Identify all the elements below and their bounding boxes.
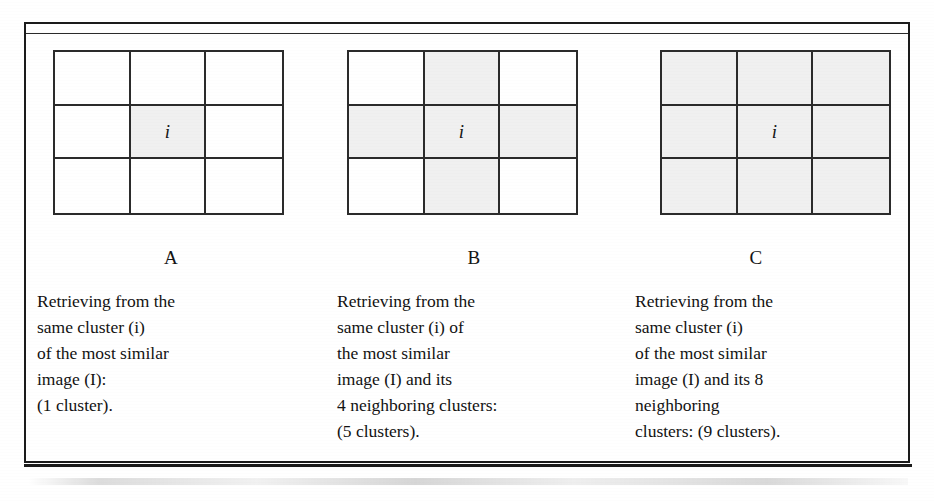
caption-line: the most similar xyxy=(337,340,632,366)
caption-line: clusters: (9 clusters). xyxy=(635,418,920,444)
cluster-cell-center: i xyxy=(425,106,501,160)
cluster-cell xyxy=(425,52,501,106)
cluster-cell xyxy=(662,159,738,213)
caption-line: 4 neighboring clusters: xyxy=(337,392,632,418)
cluster-cell xyxy=(131,52,207,106)
cluster-cell xyxy=(206,52,282,106)
cluster-cell xyxy=(738,52,814,106)
cluster-cell xyxy=(55,159,131,213)
cluster-cell xyxy=(500,52,576,106)
cluster-cell xyxy=(738,159,814,213)
cluster-cell xyxy=(131,159,207,213)
cluster-grid-b: i xyxy=(347,50,578,215)
cluster-cell xyxy=(349,106,425,160)
cluster-cell xyxy=(206,159,282,213)
panel-a: i A Retrieving from the same cluster (i)… xyxy=(40,50,338,418)
panel-letter-b: B xyxy=(334,248,632,267)
cluster-cell xyxy=(55,52,131,106)
cluster-cell xyxy=(813,52,889,106)
cluster-cell-center: i xyxy=(131,106,207,160)
cluster-cell xyxy=(662,52,738,106)
panel-container: i A Retrieving from the same cluster (i)… xyxy=(0,0,934,501)
caption-line: Retrieving from the xyxy=(337,288,632,314)
panel-caption-c: Retrieving from the same cluster (i) of … xyxy=(635,288,920,444)
panel-letter-c: C xyxy=(622,248,920,267)
caption-line: image (I) and its 8 xyxy=(635,366,920,392)
cluster-cell xyxy=(425,159,501,213)
center-cluster-label: i xyxy=(772,122,777,141)
cluster-cell xyxy=(813,106,889,160)
caption-line: Retrieving from the xyxy=(37,288,338,314)
cluster-cell-center: i xyxy=(738,106,814,160)
figure-root: i A Retrieving from the same cluster (i)… xyxy=(0,0,934,501)
cluster-cell xyxy=(813,159,889,213)
caption-line: of the most similar xyxy=(37,340,338,366)
cluster-cell xyxy=(206,106,282,160)
caption-line: of the most similar xyxy=(635,340,920,366)
cluster-cell xyxy=(662,106,738,160)
caption-line: same cluster (i) xyxy=(635,314,920,340)
cluster-cell xyxy=(500,159,576,213)
cluster-cell xyxy=(349,159,425,213)
cluster-grid-a: i xyxy=(53,50,284,215)
caption-line: image (I) and its xyxy=(337,366,632,392)
center-cluster-label: i xyxy=(459,122,464,141)
panel-letter-a: A xyxy=(40,248,338,267)
caption-line: neighboring xyxy=(635,392,920,418)
panel-c: i C Retrieving from the same cluster (i)… xyxy=(622,50,920,444)
cluster-cell xyxy=(55,106,131,160)
panel-caption-a: Retrieving from the same cluster (i) of … xyxy=(37,288,338,418)
caption-line: (5 clusters). xyxy=(337,418,632,444)
caption-line: Retrieving from the xyxy=(635,288,920,314)
caption-line: (1 cluster). xyxy=(37,392,338,418)
panel-b: i B Retrieving from the same cluster (i)… xyxy=(334,50,632,444)
cluster-cell xyxy=(349,52,425,106)
center-cluster-label: i xyxy=(165,122,170,141)
cluster-cell xyxy=(500,106,576,160)
cluster-grid-c: i xyxy=(660,50,891,215)
caption-line: same cluster (i) of xyxy=(337,314,632,340)
panel-caption-b: Retrieving from the same cluster (i) of … xyxy=(337,288,632,444)
caption-line: image (I): xyxy=(37,366,338,392)
caption-line: same cluster (i) xyxy=(37,314,338,340)
